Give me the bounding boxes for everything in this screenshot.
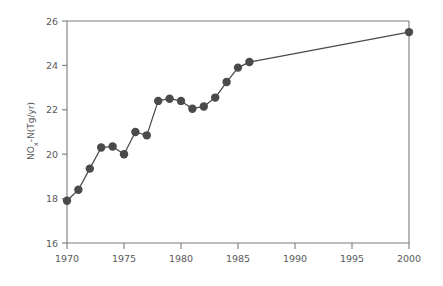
y-tick-label-20: 20 xyxy=(46,149,58,160)
data-point xyxy=(177,97,185,105)
data-point xyxy=(200,102,208,110)
y-axis-title: NOx-N(Tg/yr) xyxy=(26,102,40,160)
x-tick-label-1970: 1970 xyxy=(55,253,79,264)
y-tick-label-26: 26 xyxy=(46,16,58,27)
data-point xyxy=(108,142,116,150)
y-tick-label-22: 22 xyxy=(46,104,58,115)
y-tick-label-16: 16 xyxy=(46,238,58,249)
data-point xyxy=(188,104,196,112)
data-point xyxy=(86,164,94,172)
x-tick-label-1995: 1995 xyxy=(340,253,364,264)
data-point xyxy=(131,128,139,136)
axes xyxy=(67,21,409,243)
data-point xyxy=(234,63,242,71)
x-tick-label-2000: 2000 xyxy=(397,253,421,264)
series-line-nox xyxy=(67,32,409,201)
y-axis-title-base: NO xyxy=(26,146,36,160)
data-point xyxy=(74,186,82,194)
data-point xyxy=(97,143,105,151)
data-point xyxy=(154,97,162,105)
y-tick-label-18: 18 xyxy=(46,193,58,204)
x-tick-label-1980: 1980 xyxy=(169,253,193,264)
line-chart: NOx-N(Tg/yr) 16 18 20 22 24 26 xyxy=(0,0,443,286)
data-point xyxy=(405,28,413,36)
data-point xyxy=(143,131,151,139)
data-point xyxy=(211,93,219,101)
data-point xyxy=(120,150,128,158)
data-point xyxy=(245,58,253,66)
chart-figure: NOx-N(Tg/yr) 16 18 20 22 24 26 xyxy=(0,0,443,286)
x-axis-ticks: 1970 1975 1980 1985 1990 1995 2000 xyxy=(55,243,421,264)
y-tick-label-24: 24 xyxy=(46,60,58,71)
y-axis-ticks: 16 18 20 22 24 26 xyxy=(46,16,67,249)
data-series-layer xyxy=(63,28,413,205)
series-markers-nox xyxy=(63,28,413,205)
data-point xyxy=(63,197,71,205)
x-tick-label-1985: 1985 xyxy=(226,253,250,264)
y-axis-title-text: NOx-N(Tg/yr) xyxy=(26,102,40,160)
data-point xyxy=(222,78,230,86)
x-tick-label-1990: 1990 xyxy=(283,253,307,264)
data-point xyxy=(165,95,173,103)
y-axis-title-suffix: -N(Tg/yr) xyxy=(26,102,36,142)
x-tick-label-1975: 1975 xyxy=(112,253,136,264)
